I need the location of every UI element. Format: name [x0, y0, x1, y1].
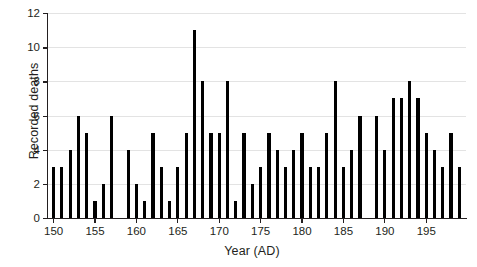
gridline — [47, 81, 466, 82]
bar — [209, 133, 212, 218]
x-tick-label: 170 — [210, 225, 229, 237]
x-tick-mark — [94, 219, 95, 223]
bar — [242, 133, 245, 218]
bar — [392, 98, 395, 218]
bar — [342, 167, 345, 218]
y-tick-label: 6 — [34, 110, 40, 122]
x-tick-label: 185 — [334, 225, 353, 237]
y-tick-label: 12 — [27, 7, 40, 19]
bar — [60, 167, 63, 218]
bar — [135, 184, 138, 218]
bar — [127, 150, 130, 218]
bar — [176, 167, 179, 218]
bar — [317, 167, 320, 218]
y-tick-label: 4 — [34, 144, 40, 156]
bar — [292, 150, 295, 218]
bar — [143, 201, 146, 218]
x-tick-label: 175 — [251, 225, 270, 237]
x-tick-label: 165 — [168, 225, 187, 237]
bar — [168, 201, 171, 218]
x-tick-label: 155 — [85, 225, 104, 237]
bar — [325, 133, 328, 218]
bar — [334, 81, 337, 218]
bar — [193, 30, 196, 218]
bar — [267, 133, 270, 218]
bar — [458, 167, 461, 218]
bar — [77, 116, 80, 219]
bar — [408, 81, 411, 218]
bar — [309, 167, 312, 218]
x-tick-mark — [426, 219, 427, 223]
bar — [449, 133, 452, 218]
bar — [69, 150, 72, 218]
x-tick-label: 150 — [44, 225, 63, 237]
y-tick-label: 8 — [34, 75, 40, 87]
bar — [276, 150, 279, 218]
x-tick-mark — [53, 219, 54, 223]
bar — [93, 201, 96, 218]
bar — [400, 98, 403, 218]
bar — [218, 133, 221, 218]
bar — [425, 133, 428, 218]
x-tick-label: 180 — [292, 225, 311, 237]
bar — [416, 98, 419, 218]
bar — [259, 167, 262, 218]
bar-chart: Recorded deaths 024681012 15015516016517… — [0, 0, 477, 267]
bar — [383, 150, 386, 218]
x-tick-label: 195 — [417, 225, 436, 237]
y-axis-line — [47, 13, 48, 219]
gridline — [47, 13, 466, 14]
bar — [251, 184, 254, 218]
bar — [375, 116, 378, 219]
x-tick-mark — [177, 219, 178, 223]
x-tick-mark — [260, 219, 261, 223]
y-tick-label: 10 — [27, 41, 40, 53]
bar — [358, 116, 361, 219]
x-tick-mark — [219, 219, 220, 223]
bar — [441, 167, 444, 218]
x-tick-mark — [343, 219, 344, 223]
y-tick-label: 0 — [34, 212, 40, 224]
x-tick-label: 160 — [127, 225, 146, 237]
bar — [300, 133, 303, 218]
bar — [234, 201, 237, 218]
bar — [110, 116, 113, 219]
bar — [151, 133, 154, 218]
bar — [433, 150, 436, 218]
bar — [226, 81, 229, 218]
bar — [185, 133, 188, 218]
x-tick-mark — [301, 219, 302, 223]
plot-area: 024681012 — [47, 13, 466, 218]
bar — [85, 133, 88, 218]
x-axis-title: Year (AD) — [34, 244, 470, 258]
bar — [52, 167, 55, 218]
gridline — [47, 47, 466, 48]
bar — [102, 184, 105, 218]
x-tick-mark — [136, 219, 137, 223]
x-axis-ticks: 150155160165170175180185190195 — [47, 219, 467, 243]
bar — [350, 150, 353, 218]
x-tick-label: 190 — [375, 225, 394, 237]
bar — [160, 167, 163, 218]
x-tick-mark — [384, 219, 385, 223]
bar — [201, 81, 204, 218]
y-tick-label: 2 — [34, 178, 40, 190]
bar — [284, 167, 287, 218]
